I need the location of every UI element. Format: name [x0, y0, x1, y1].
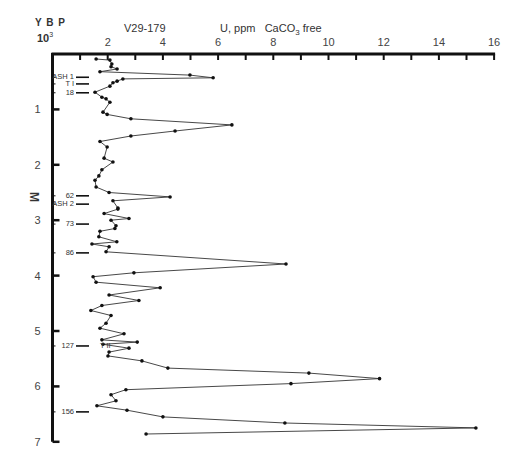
- data-point: [105, 145, 109, 149]
- data-point: [158, 286, 162, 290]
- marker-label: 18: [66, 88, 74, 97]
- data-point: [100, 168, 104, 172]
- data-point: [168, 195, 172, 199]
- data-point: [104, 250, 108, 254]
- data-point: [93, 179, 97, 183]
- y-tick-label: 1: [34, 103, 40, 115]
- data-point: [109, 65, 113, 69]
- data-point: [107, 293, 111, 297]
- data-point: [107, 191, 111, 195]
- data-point: [132, 271, 136, 275]
- data-point: [107, 245, 111, 249]
- data-point: [283, 421, 287, 425]
- data-point: [108, 84, 112, 88]
- data-point: [121, 77, 125, 81]
- data-point: [109, 218, 113, 222]
- data-point: [104, 321, 108, 325]
- data-point: [135, 340, 139, 344]
- data-point: [114, 399, 118, 403]
- data-point: [94, 57, 98, 61]
- data-point: [94, 280, 98, 284]
- data-point: [106, 354, 110, 358]
- data-point: [109, 393, 113, 397]
- data-point: [111, 199, 115, 203]
- marker-label-tii: T II: [100, 341, 111, 350]
- data-line: [91, 59, 476, 434]
- data-point: [95, 404, 99, 408]
- data-point: [108, 58, 112, 62]
- marker-label: T I: [65, 79, 74, 88]
- data-point: [140, 359, 144, 363]
- data-point: [111, 81, 115, 85]
- x-tick-label: 6: [215, 36, 221, 48]
- data-point: [289, 382, 293, 386]
- ybp-unit-base: 10: [37, 32, 49, 44]
- y-tick-label: 2: [34, 159, 40, 171]
- data-point: [98, 326, 102, 330]
- data-point: [230, 123, 234, 127]
- data-point: [188, 73, 192, 77]
- data-point: [100, 95, 104, 99]
- data-point: [102, 156, 106, 160]
- data-point: [90, 242, 94, 246]
- y-tick-label: 4: [34, 270, 40, 282]
- x-tick-label: 4: [160, 36, 166, 48]
- uranium-depth-chart: 2468101214161234567: [0, 0, 530, 471]
- quantity-label: U, ppm CaCO3 free: [220, 22, 322, 37]
- x-tick-label: 10: [322, 36, 334, 48]
- marker-label: ASH 2: [52, 199, 74, 208]
- data-point: [107, 350, 111, 354]
- data-point: [161, 415, 165, 419]
- data-point: [98, 229, 102, 233]
- ybp-unit-exponent: 3: [49, 31, 53, 38]
- data-point: [166, 366, 170, 370]
- data-point: [307, 371, 311, 375]
- data-point: [129, 134, 133, 138]
- data-point: [129, 117, 133, 121]
- basis-suffix: free: [300, 22, 322, 34]
- y-tick-label: 6: [34, 380, 40, 392]
- x-tick-label: 14: [433, 36, 445, 48]
- ybp-unit-label: 103: [37, 31, 53, 44]
- data-point: [101, 110, 105, 114]
- data-point: [113, 227, 117, 231]
- data-point: [98, 70, 102, 74]
- data-point: [94, 185, 98, 189]
- data-point: [98, 140, 102, 144]
- data-point: [116, 207, 120, 211]
- basis-text: CaCO: [265, 22, 296, 34]
- x-tick-label: 12: [378, 36, 390, 48]
- data-point: [137, 299, 141, 303]
- depth-axis-label: M: [27, 192, 41, 202]
- marker-label: 73: [66, 219, 74, 228]
- data-point: [91, 275, 95, 279]
- data-point: [89, 309, 93, 313]
- core-id-label: V29-179: [124, 22, 166, 34]
- data-point: [111, 160, 115, 164]
- marker-label: 156: [61, 407, 74, 416]
- x-tick-label: 2: [105, 36, 111, 48]
- y-tick-label: 7: [34, 436, 40, 448]
- data-point: [104, 97, 108, 101]
- data-point: [115, 79, 119, 83]
- data-point: [100, 304, 104, 308]
- data-point: [125, 408, 129, 412]
- data-point: [144, 432, 148, 436]
- data-point: [105, 113, 109, 117]
- data-point: [97, 235, 101, 239]
- y-tick-label: 3: [34, 214, 40, 226]
- x-tick-label: 16: [488, 36, 500, 48]
- data-point: [115, 67, 119, 71]
- data-point: [122, 332, 126, 336]
- y-tick-label: 5: [34, 325, 40, 337]
- data-point: [108, 100, 112, 104]
- ybp-label: Y B P: [35, 17, 66, 28]
- data-point: [109, 314, 113, 318]
- quantity-text: U, ppm: [220, 22, 255, 34]
- data-point: [127, 217, 131, 221]
- data-point: [102, 212, 106, 216]
- marker-label: 86: [66, 248, 74, 257]
- data-point: [115, 240, 119, 244]
- data-point: [124, 388, 128, 392]
- x-tick-label: 8: [270, 36, 276, 48]
